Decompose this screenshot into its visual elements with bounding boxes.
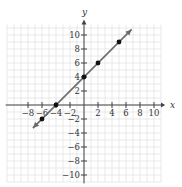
data-point: [96, 61, 101, 66]
x-tick-label: 10: [149, 108, 160, 118]
line-segment: [33, 29, 132, 128]
y-tick-label: −2: [67, 114, 80, 124]
y-tick-label: 4: [75, 72, 80, 82]
data-point: [117, 40, 122, 45]
y-tick-label: 2: [75, 86, 80, 96]
x-axis-label: x: [170, 100, 175, 110]
y-tick-label: 10: [69, 30, 80, 40]
data-point: [40, 117, 45, 122]
x-tick-label: −8: [22, 108, 35, 118]
y-axis-arrow-icon: [82, 20, 87, 25]
y-axis-label: y: [81, 7, 88, 17]
data-line: [33, 29, 132, 128]
y-tick-label: −8: [67, 156, 80, 166]
data-point: [54, 103, 59, 108]
x-tick-label: 8: [137, 108, 142, 118]
y-tick-label: −10: [62, 170, 80, 180]
x-tick-label: 6: [123, 108, 128, 118]
y-tick-label: 8: [75, 44, 80, 54]
x-tick-label: 4: [109, 108, 114, 118]
data-point: [82, 75, 87, 80]
x-tick-label: 2: [95, 108, 100, 118]
x-tick-label: −6: [36, 108, 49, 118]
coordinate-plane: −8−6−4−2246810108642−2−4−6−8−10 x y: [0, 0, 182, 187]
y-tick-label: −4: [67, 128, 80, 138]
y-tick-label: −6: [67, 142, 80, 152]
axes: [6, 20, 166, 184]
y-tick-label: 6: [75, 58, 80, 68]
x-axis-arrow-icon: [161, 103, 165, 108]
